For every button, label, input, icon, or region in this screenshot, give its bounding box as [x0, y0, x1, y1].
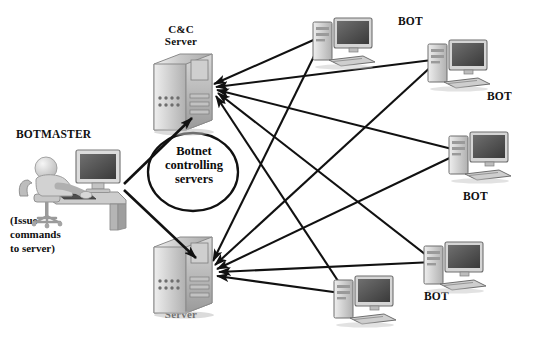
- arrow-botmaster-to-top-server: [124, 118, 192, 184]
- botnet-diagram: BOTMASTER (Issue commands to server) C&C…: [0, 0, 533, 342]
- botmaster-command-arrows: [0, 0, 533, 342]
- arrow-botmaster-to-bottom-server: [124, 190, 196, 258]
